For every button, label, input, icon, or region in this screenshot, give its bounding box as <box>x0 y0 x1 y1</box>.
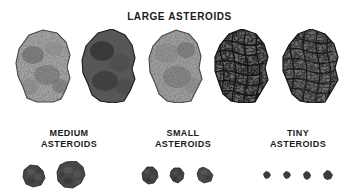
small-asteroid-2 <box>169 167 185 184</box>
large-asteroid-3 <box>146 29 204 103</box>
tiny-asteroid-4 <box>323 170 333 180</box>
group-label-medium: MEDIUM ASTEROIDS <box>14 128 124 150</box>
tiny-asteroid-3 <box>303 171 311 180</box>
small-asteroid-3 <box>196 167 214 184</box>
group-label-small: SMALL ASTEROIDS <box>133 128 233 150</box>
medium-asteroid-2 <box>56 161 86 189</box>
tiny-asteroid-2 <box>283 171 291 179</box>
large-asteroid-4 <box>212 29 270 103</box>
small-asteroid-1 <box>141 166 159 185</box>
large-asteroid-1 <box>13 29 75 103</box>
group-label-tiny: TINY ASTEROIDS <box>248 128 348 150</box>
medium-asteroid-1 <box>22 164 46 188</box>
asteroid-sprite-sheet: LARGE ASTEROIDS <box>0 0 359 196</box>
large-asteroid-2 <box>80 29 138 103</box>
tiny-asteroid-1 <box>263 171 271 179</box>
large-asteroid-5 <box>280 29 340 103</box>
page-title: LARGE ASTEROIDS <box>0 11 359 22</box>
